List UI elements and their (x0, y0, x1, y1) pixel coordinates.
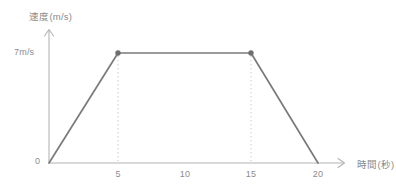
y-tick-label-7: 7m/s (14, 48, 34, 57)
origin-label: 0 (35, 157, 40, 166)
x-axis-title: 時間(秒) (357, 160, 394, 170)
velocity-time-chart: 速度(m/s) 時間(秒) 7m/s 0 5 10 15 20 (0, 0, 396, 192)
x-tick-label-10: 10 (173, 170, 197, 179)
data-point-marker-t5 (115, 50, 120, 55)
y-axis-title: 速度(m/s) (29, 12, 72, 22)
chart-canvas (0, 0, 396, 192)
x-tick-label-15: 15 (239, 170, 263, 179)
velocity-line-series (49, 53, 318, 163)
data-point-marker-t15 (248, 50, 253, 55)
x-tick-label-20: 20 (306, 170, 330, 179)
x-tick-label-5: 5 (106, 170, 130, 179)
